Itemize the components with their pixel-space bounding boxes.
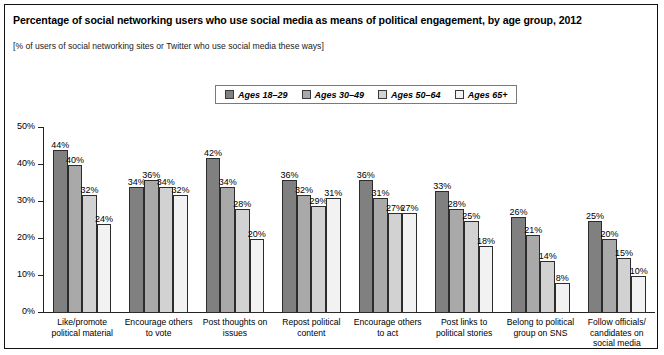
bar-slot: 40% — [68, 127, 83, 313]
bar-slot: 14% — [540, 127, 555, 313]
bar-groups: 44%40%32%24%34%36%34%32%42%34%28%20%36%3… — [44, 127, 655, 313]
bar-value-label: 31% — [371, 188, 389, 198]
bar-value-label: 32% — [171, 185, 189, 195]
bar-slot: 31% — [326, 127, 341, 313]
bar-slot: 27% — [388, 127, 403, 313]
bar[interactable]: 21% — [526, 235, 541, 313]
bar[interactable]: 24% — [97, 224, 112, 313]
bar-value-label: 21% — [524, 225, 542, 235]
category-label: Encourage others to vote — [120, 317, 196, 349]
category-label: Belong to political group on SNS — [502, 317, 578, 349]
bar-value-label: 10% — [630, 266, 648, 276]
bar[interactable]: 32% — [82, 195, 97, 313]
bar-slot: 25% — [464, 127, 479, 313]
legend-swatch-icon — [455, 90, 464, 99]
bar-group: 34%36%34%32% — [120, 127, 196, 313]
bar-slot: 21% — [526, 127, 541, 313]
bar[interactable]: 10% — [631, 276, 646, 313]
bar-slot: 36% — [144, 127, 159, 313]
bar-slot: 33% — [435, 127, 450, 313]
category-label: Post links to political stories — [426, 317, 502, 349]
bar[interactable]: 44% — [53, 150, 68, 313]
bar-value-label: 20% — [248, 229, 266, 239]
bar[interactable]: 36% — [144, 180, 159, 313]
bar-value-label: 24% — [95, 214, 113, 224]
legend-item[interactable]: Ages 30–49 — [302, 90, 365, 100]
bar-group: 44%40%32%24% — [44, 127, 120, 313]
bar-slot: 18% — [479, 127, 494, 313]
bar-slot: 10% — [631, 127, 646, 313]
bar-value-label: 18% — [477, 236, 495, 246]
plot-area: 50%40%30%20%10%0% 44%40%32%24%34%36%34%3… — [43, 127, 655, 313]
bar-slot: 34% — [220, 127, 235, 313]
bar-slot: 32% — [297, 127, 312, 313]
bar[interactable]: 28% — [449, 209, 464, 313]
bar-slot: 34% — [159, 127, 174, 313]
bar-value-label: 36% — [357, 170, 375, 180]
legend-item[interactable]: Ages 18–29 — [225, 90, 288, 100]
bar[interactable]: 20% — [250, 239, 265, 313]
category-label: Repost political content — [273, 317, 349, 349]
bar[interactable]: 34% — [129, 187, 144, 313]
bar[interactable]: 27% — [388, 213, 403, 313]
legend-swatch-icon — [302, 90, 311, 99]
bar-group: 33%28%25%18% — [426, 127, 502, 313]
bar[interactable]: 34% — [159, 187, 174, 313]
bar-value-label: 33% — [433, 181, 451, 191]
bar[interactable]: 32% — [297, 195, 312, 313]
y-axis-tick-label: 50% — [17, 121, 35, 131]
x-axis-category-labels: Like/promote political materialEncourage… — [44, 317, 655, 349]
y-axis-tick-label: 0% — [22, 306, 35, 316]
chart-subtitle: [% of users of social networking sites o… — [13, 41, 645, 52]
chart-legend: Ages 18–29Ages 30–49Ages 50–64Ages 65+ — [215, 85, 517, 104]
category-label: Post thoughts on issues — [197, 317, 273, 349]
bar[interactable]: 28% — [235, 209, 250, 313]
bar[interactable]: 32% — [173, 195, 188, 313]
bar-slot: 32% — [173, 127, 188, 313]
legend-item[interactable]: Ages 65+ — [455, 90, 508, 100]
bar-value-label: 32% — [80, 185, 98, 195]
bar[interactable]: 14% — [540, 261, 555, 313]
bar-value-label: 25% — [586, 211, 604, 221]
legend-swatch-icon — [225, 90, 234, 99]
legend-label: Ages 65+ — [468, 90, 508, 100]
bar[interactable]: 8% — [555, 283, 570, 313]
bar-group: 26%21%14%8% — [502, 127, 578, 313]
legend-label: Ages 18–29 — [238, 90, 288, 100]
y-axis-tick: 50% — [38, 127, 43, 128]
chart-title: Percentage of social networking users wh… — [13, 14, 645, 27]
bar-slot: 15% — [617, 127, 632, 313]
y-axis-tick: 0% — [38, 312, 43, 313]
bar[interactable]: 36% — [359, 180, 374, 313]
bar-value-label: 15% — [615, 248, 633, 258]
bar[interactable]: 27% — [402, 213, 417, 313]
bar-group: 42%34%28%20% — [197, 127, 273, 313]
bar[interactable]: 31% — [326, 198, 341, 313]
chart-frame: Percentage of social networking users wh… — [4, 4, 658, 349]
bar-slot: 34% — [129, 127, 144, 313]
bar-value-label: 40% — [66, 155, 84, 165]
bar-slot: 24% — [97, 127, 112, 313]
bar[interactable]: 25% — [464, 221, 479, 314]
bar-value-label: 27% — [401, 203, 419, 213]
bar[interactable]: 31% — [373, 198, 388, 313]
legend-label: Ages 50–64 — [391, 90, 441, 100]
y-axis-tick: 30% — [38, 201, 43, 202]
bar-value-label: 42% — [204, 148, 222, 158]
bar-slot: 25% — [588, 127, 603, 313]
bar-slot: 20% — [602, 127, 617, 313]
bar-value-label: 32% — [295, 185, 313, 195]
bar-value-label: 36% — [280, 170, 298, 180]
category-label: Like/promote political material — [44, 317, 120, 349]
legend-label: Ages 30–49 — [315, 90, 365, 100]
bar-slot: 36% — [359, 127, 374, 313]
bar-value-label: 8% — [556, 273, 569, 283]
bar-slot: 20% — [250, 127, 265, 313]
bar[interactable]: 18% — [479, 246, 494, 313]
legend-item[interactable]: Ages 50–64 — [378, 90, 441, 100]
bar[interactable]: 29% — [311, 206, 326, 313]
bar[interactable]: 36% — [282, 180, 297, 313]
y-axis-tick: 20% — [38, 238, 43, 239]
bar-value-label: 26% — [510, 207, 528, 217]
y-axis-tick-label: 10% — [17, 269, 35, 279]
